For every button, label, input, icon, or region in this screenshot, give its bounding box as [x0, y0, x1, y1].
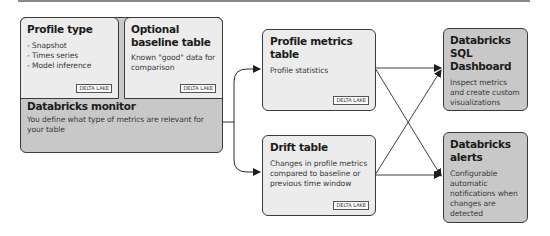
- alerts-title: Databricks alerts: [450, 138, 521, 164]
- profile-type-box: Profile type Snapshot Times series Model…: [20, 17, 119, 99]
- profile-metrics-description: Profile statistics: [270, 66, 368, 76]
- profile-type-item: Times series: [27, 51, 112, 61]
- monitor-description: You define what type of metrics are rele…: [27, 115, 216, 135]
- monitor-title: Databricks monitor: [27, 100, 216, 113]
- sql-dashboard-title: Databricks SQL Dashboard: [450, 34, 521, 73]
- alerts-description: Configurable automatic notifications whe…: [450, 169, 521, 219]
- drift-description: Changes in profile metrics compared to b…: [270, 159, 368, 189]
- drift-title: Drift table: [270, 141, 368, 154]
- profile-metrics-table-box: Profile metrics table Profile statistics…: [262, 29, 376, 111]
- profile-type-title: Profile type: [27, 23, 112, 36]
- baseline-description: Known "good" data for comparison: [131, 53, 216, 73]
- profile-type-list: Snapshot Times series Model inference: [27, 41, 112, 71]
- delta-lake-badge: DELTA LAKE: [180, 84, 216, 93]
- delta-lake-badge: DELTA LAKE: [333, 201, 369, 210]
- alerts-box: Databricks alerts Configurable automatic…: [443, 132, 528, 223]
- profile-type-item: Snapshot: [27, 41, 112, 51]
- delta-lake-badge: DELTA LAKE: [333, 96, 369, 105]
- drift-table-box: Drift table Changes in profile metrics c…: [262, 135, 376, 216]
- profile-type-item: Model inference: [27, 61, 112, 71]
- baseline-title: Optional baseline table: [131, 23, 216, 49]
- baseline-table-box: Optional baseline table Known "good" dat…: [124, 17, 223, 99]
- sql-dashboard-description: Inspect metrics and create custom visual…: [450, 78, 521, 108]
- delta-lake-badge: DELTA LAKE: [76, 84, 112, 93]
- sql-dashboard-box: Databricks SQL Dashboard Inspect metrics…: [443, 28, 528, 111]
- profile-metrics-title: Profile metrics table: [270, 35, 368, 61]
